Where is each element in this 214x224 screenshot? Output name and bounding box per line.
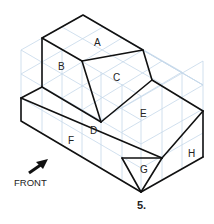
face-label-a: A: [94, 37, 101, 48]
figure-number: 5.: [137, 199, 146, 211]
front-label: FRONT: [14, 177, 47, 188]
face-label-c: C: [113, 72, 120, 83]
face-label-f: F: [68, 135, 74, 146]
face-label-g: G: [140, 164, 148, 175]
isometric-drawing: A B C D E F G H FRONT 5.: [0, 0, 214, 224]
face-label-b: B: [58, 61, 65, 72]
front-arrow-icon: [29, 159, 48, 173]
face-label-d: D: [90, 125, 97, 136]
face-label-e: E: [140, 108, 147, 119]
face-label-h: H: [188, 148, 195, 159]
